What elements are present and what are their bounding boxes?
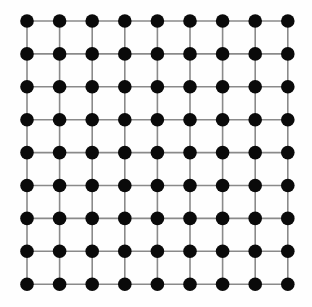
lattice-node-r4-c8	[281, 146, 295, 160]
lattice-node-r2-c6	[216, 80, 230, 94]
lattice-node-r5-c1	[53, 179, 67, 193]
lattice-node-r7-c0	[20, 245, 34, 259]
lattice-node-r2-c8	[281, 80, 295, 94]
lattice-node-r0-c1	[53, 14, 67, 28]
lattice-node-r6-c6	[216, 212, 230, 226]
lattice-node-r7-c7	[248, 245, 262, 259]
lattice-node-r0-c8	[281, 14, 295, 28]
lattice-node-r3-c7	[248, 113, 262, 127]
lattice-node-r1-c1	[53, 47, 67, 61]
lattice-node-r6-c2	[85, 212, 99, 226]
lattice-node-r3-c5	[183, 113, 197, 127]
lattice-node-r5-c6	[216, 179, 230, 193]
lattice-node-r7-c4	[151, 245, 165, 259]
lattice-node-r8-c8	[281, 277, 295, 291]
lattice-node-r4-c2	[85, 146, 99, 160]
lattice-node-r4-c5	[183, 146, 197, 160]
lattice-node-r5-c8	[281, 179, 295, 193]
lattice-node-r5-c5	[183, 179, 197, 193]
lattice-node-r1-c4	[151, 47, 165, 61]
lattice-node-r8-c4	[151, 277, 165, 291]
lattice-node-r0-c0	[20, 14, 34, 28]
lattice-node-r4-c7	[248, 146, 262, 160]
lattice-node-r4-c0	[20, 146, 34, 160]
lattice-node-r8-c2	[85, 277, 99, 291]
lattice-node-r7-c2	[85, 245, 99, 259]
lattice-node-r6-c8	[281, 212, 295, 226]
lattice-node-r2-c1	[53, 80, 67, 94]
lattice-node-r1-c3	[118, 47, 132, 61]
lattice-node-r0-c3	[118, 14, 132, 28]
lattice-node-r3-c1	[53, 113, 67, 127]
lattice-node-r6-c7	[248, 212, 262, 226]
lattice-node-r8-c6	[216, 277, 230, 291]
lattice-node-r7-c8	[281, 245, 295, 259]
lattice-node-r6-c3	[118, 212, 132, 226]
lattice-node-r5-c4	[151, 179, 165, 193]
lattice-node-r3-c0	[20, 113, 34, 127]
lattice-node-r6-c0	[20, 212, 34, 226]
lattice-node-r3-c4	[151, 113, 165, 127]
lattice-node-r5-c7	[248, 179, 262, 193]
lattice-node-r1-c0	[20, 47, 34, 61]
lattice-node-r7-c5	[183, 245, 197, 259]
lattice-node-r8-c1	[53, 277, 67, 291]
lattice-node-r8-c3	[118, 277, 132, 291]
lattice-node-r2-c3	[118, 80, 132, 94]
lattice-node-r3-c6	[216, 113, 230, 127]
lattice-node-r7-c3	[118, 245, 132, 259]
lattice-node-r7-c1	[53, 245, 67, 259]
lattice-node-r2-c4	[151, 80, 165, 94]
lattice-node-r4-c3	[118, 146, 132, 160]
lattice-node-r2-c7	[248, 80, 262, 94]
lattice-node-r4-c1	[53, 146, 67, 160]
lattice-figure	[0, 0, 312, 307]
lattice-node-r2-c5	[183, 80, 197, 94]
lattice-node-r1-c2	[85, 47, 99, 61]
lattice-node-r0-c2	[85, 14, 99, 28]
lattice-node-r5-c0	[20, 179, 34, 193]
lattice-node-r1-c5	[183, 47, 197, 61]
lattice-node-r6-c4	[151, 212, 165, 226]
lattice-node-r3-c8	[281, 113, 295, 127]
lattice-node-r8-c7	[248, 277, 262, 291]
lattice-node-r0-c7	[248, 14, 262, 28]
lattice-node-r7-c6	[216, 245, 230, 259]
lattice-canvas	[0, 0, 312, 307]
node-layer	[20, 14, 294, 291]
lattice-node-r3-c2	[85, 113, 99, 127]
lattice-node-r8-c5	[183, 277, 197, 291]
lattice-node-r4-c6	[216, 146, 230, 160]
lattice-node-r6-c5	[183, 212, 197, 226]
lattice-node-r1-c7	[248, 47, 262, 61]
lattice-node-r3-c3	[118, 113, 132, 127]
lattice-node-r4-c4	[151, 146, 165, 160]
lattice-node-r8-c0	[20, 277, 34, 291]
lattice-node-r2-c0	[20, 80, 34, 94]
lattice-node-r0-c5	[183, 14, 197, 28]
lattice-node-r1-c8	[281, 47, 295, 61]
lattice-node-r0-c4	[151, 14, 165, 28]
lattice-node-r6-c1	[53, 212, 67, 226]
lattice-node-r5-c2	[85, 179, 99, 193]
lattice-node-r5-c3	[118, 179, 132, 193]
lattice-node-r0-c6	[216, 14, 230, 28]
lattice-node-r1-c6	[216, 47, 230, 61]
lattice-node-r2-c2	[85, 80, 99, 94]
